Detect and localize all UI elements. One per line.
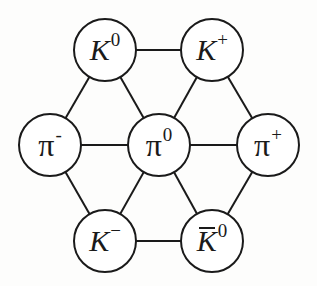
node-label-pi-minus: π- (19, 114, 81, 176)
symbol: K (196, 35, 216, 65)
node-label-pi-plus: π+ (237, 114, 299, 176)
node-label-k-plus: K+ (181, 19, 243, 81)
superscript: + (217, 30, 228, 49)
superscript: 0 (218, 221, 228, 240)
node-label-k0: K0 (74, 19, 136, 81)
symbol: π (254, 129, 270, 161)
superscript: - (55, 125, 61, 144)
superscript: 0 (163, 125, 173, 144)
symbol: π (38, 129, 54, 161)
node-label-k-minus: K− (74, 210, 136, 272)
node-label-k0-bar: K0 (181, 210, 243, 272)
symbol: K (89, 226, 109, 256)
superscript: − (110, 221, 121, 240)
symbol-with-overbar: K (197, 226, 217, 256)
superscript: + (271, 125, 282, 144)
meson-octet-diagram: K0 K+ π- π0 π+ K− K0 (0, 0, 317, 286)
symbol: π (146, 129, 162, 161)
symbol: K (90, 35, 110, 65)
node-label-pi-zero: π0 (128, 114, 190, 176)
superscript: 0 (111, 30, 121, 49)
overbar (199, 227, 215, 229)
